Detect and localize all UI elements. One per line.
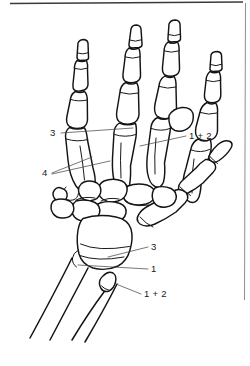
top-frame-rule xyxy=(10,2,243,4)
ulna-shaft-medial xyxy=(50,268,88,340)
digit-ring-group xyxy=(147,20,181,187)
distal-phalanx-index xyxy=(77,40,89,61)
ulna-shaft-lateral xyxy=(30,258,72,338)
middle-phalanx-middle xyxy=(123,48,141,83)
label-3-upper: 3 xyxy=(50,127,56,138)
radius-distal-end xyxy=(77,216,132,270)
metacarpal-middle-shaft-groove xyxy=(121,143,122,178)
distal-phalanx-ring xyxy=(168,20,181,42)
label-1plus2-upper: 1 + 2 xyxy=(189,130,212,141)
carpal-triquetrum xyxy=(51,199,74,218)
radius-lateral-step xyxy=(72,250,78,267)
carpal-trapezoid xyxy=(152,187,176,208)
label-4: 4 xyxy=(42,167,48,178)
digit-index-group xyxy=(66,40,96,193)
middle-phalanx-little xyxy=(204,72,220,103)
right-frame-rule xyxy=(245,3,246,300)
distal-phalanx-middle xyxy=(129,25,142,48)
leader-1plus2-lower xyxy=(116,284,141,294)
distal-phalanx-little xyxy=(210,52,222,72)
digit-middle-group xyxy=(112,25,142,191)
sesamoid-ring-capsule xyxy=(169,107,193,131)
proximal-phalanx-middle xyxy=(117,83,139,125)
middle-phalanx-index xyxy=(73,61,88,92)
proximal-phalanx-index xyxy=(67,92,88,129)
metacarpal-ring xyxy=(147,118,171,188)
label-1plus2-lower: 1 + 2 xyxy=(144,288,167,299)
forearm-shafts-group xyxy=(30,258,117,342)
middle-phalanx-ring xyxy=(162,42,179,76)
label-3-lower: 3 xyxy=(151,241,157,252)
hand-skeleton-svg: 3 4 1 + 2 3 1 1 + 2 xyxy=(0,0,250,366)
label-1-lower: 1 xyxy=(151,263,157,274)
ulnar-styloid-process xyxy=(99,272,115,291)
hand-skeleton-figure: 3 4 1 + 2 3 1 1 + 2 xyxy=(0,0,250,366)
